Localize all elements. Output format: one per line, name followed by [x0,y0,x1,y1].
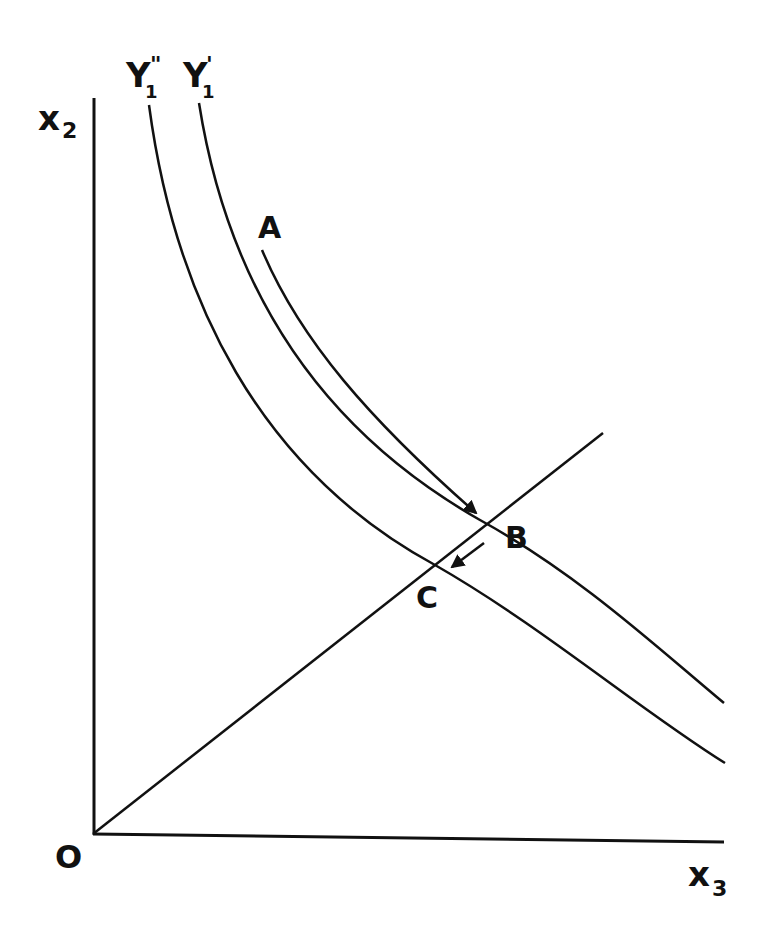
isoquant-y1-double-prime [149,105,725,763]
curve-label-y1-double-prime: Y 1 " [125,52,161,102]
svg-text:": " [150,52,161,77]
point-label-c: C [416,580,438,615]
svg-text:x: x [38,98,60,138]
x-axis [93,834,724,842]
arrow-a-to-b [262,250,476,513]
point-label-a: A [258,210,282,245]
curve-label-y1-prime: Y 1 ' [182,52,215,102]
isoquant-y1-prime [199,103,724,703]
svg-text:': ' [206,52,213,77]
svg-text:3: 3 [712,876,727,901]
svg-text:1: 1 [202,81,215,102]
isoquant-diagram: x 2 x 3 O Y 1 " Y 1 ' A B C [0,0,771,946]
expansion-ray [93,433,603,834]
x-axis-label: x 3 [688,854,727,901]
y-axis-label: x 2 [38,98,77,143]
origin-label: O [55,838,82,876]
svg-text:x: x [688,854,710,894]
svg-text:1: 1 [145,81,158,102]
svg-text:2: 2 [62,118,77,143]
point-label-b: B [505,520,528,555]
